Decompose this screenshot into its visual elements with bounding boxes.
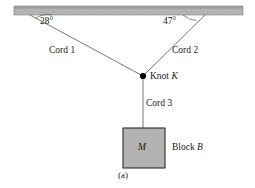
ceiling-bar-top-stripe: [14, 6, 243, 9]
knot-dot: [140, 73, 146, 79]
figure-caption: (a): [118, 171, 128, 180]
ceiling-bar: [14, 6, 243, 15]
cord-1-label: Cord 1: [49, 46, 75, 56]
block-label-symbol: B: [197, 142, 203, 152]
angle-label-left: 28°: [40, 17, 53, 27]
diagram-canvas: [0, 0, 255, 188]
angle-label-right: 47°: [163, 17, 176, 27]
knot-label-symbol: K: [171, 71, 177, 81]
cord-3-label: Cord 3: [146, 99, 172, 109]
block-label: Block B: [172, 143, 203, 153]
physics-figure: 28° 47° Cord 1 Cord 2 Cord 3 Knot K M Bl…: [0, 0, 255, 188]
block-label-text: Block: [172, 142, 197, 152]
cord-2-label: Cord 2: [172, 46, 198, 56]
knot-label: Knot K: [150, 72, 178, 82]
angle-arc-right: [183, 15, 197, 21]
block-mass-symbol: M: [138, 143, 146, 153]
knot-label-text: Knot: [150, 71, 171, 81]
